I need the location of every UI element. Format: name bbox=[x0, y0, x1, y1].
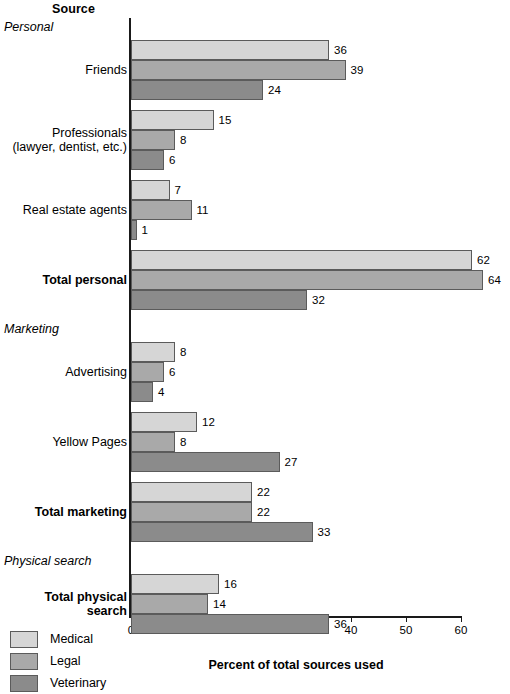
legend-item[interactable]: Medical bbox=[10, 628, 106, 650]
axis-tick bbox=[461, 616, 462, 622]
bar-value-label: 36 bbox=[334, 40, 347, 60]
legend-label: Veterinary bbox=[50, 676, 106, 690]
legend-swatch-legal bbox=[10, 653, 38, 670]
legend-item[interactable]: Veterinary bbox=[10, 672, 106, 694]
plot-area: 0102030405060 36392415867111626432864128… bbox=[131, 18, 461, 616]
bar-legal bbox=[131, 60, 346, 80]
bar-value-label: 6 bbox=[169, 150, 175, 170]
legend-label: Legal bbox=[50, 654, 81, 668]
axis-tick bbox=[351, 616, 352, 622]
bar-value-label: 11 bbox=[197, 200, 209, 220]
bar-veterinary bbox=[131, 80, 263, 100]
page-title: Source bbox=[52, 2, 95, 16]
bar-veterinary bbox=[131, 522, 313, 542]
bar-medical bbox=[131, 110, 214, 130]
bar-legal bbox=[131, 200, 192, 220]
group-heading-label: Marketing bbox=[4, 322, 128, 336]
bar-value-label: 14 bbox=[213, 594, 226, 614]
bar-medical bbox=[131, 574, 219, 594]
category-label: Total physical search bbox=[3, 590, 127, 618]
category-label: Advertising bbox=[3, 365, 127, 379]
bar-medical bbox=[131, 412, 197, 432]
legend-swatch-medical bbox=[10, 631, 38, 648]
bar-value-label: 32 bbox=[312, 290, 325, 310]
bar-value-label: 8 bbox=[180, 342, 186, 362]
bar-medical bbox=[131, 342, 175, 362]
category-label-column: PersonalFriendsProfessionals (lawyer, de… bbox=[0, 18, 127, 616]
legend-label: Medical bbox=[50, 632, 93, 646]
bar-legal bbox=[131, 594, 208, 614]
bar-veterinary bbox=[131, 382, 153, 402]
bar-medical bbox=[131, 40, 329, 60]
bar-chart: Source PersonalFriendsProfessionals (law… bbox=[0, 0, 510, 694]
bar-value-label: 36 bbox=[334, 614, 347, 634]
bar-value-label: 33 bbox=[318, 522, 331, 542]
bar-medical bbox=[131, 482, 252, 502]
category-label: Total marketing bbox=[3, 505, 127, 519]
bar-value-label: 12 bbox=[202, 412, 215, 432]
axis-tick bbox=[406, 616, 407, 622]
bar-value-label: 4 bbox=[158, 382, 164, 402]
category-label: Professionals (lawyer, dentist, etc.) bbox=[3, 126, 127, 154]
bar-value-label: 15 bbox=[219, 110, 232, 130]
group-heading-label: Physical search bbox=[4, 554, 128, 568]
bar-value-label: 39 bbox=[351, 60, 364, 80]
bar-value-label: 22 bbox=[257, 482, 270, 502]
axis-tick-label: 50 bbox=[400, 624, 413, 636]
x-axis-title: Percent of total sources used bbox=[131, 658, 461, 672]
bar-value-label: 27 bbox=[285, 452, 298, 472]
legend-swatch-veterinary bbox=[10, 675, 38, 692]
legend-item[interactable]: Legal bbox=[10, 650, 106, 672]
bar-value-label: 64 bbox=[488, 270, 501, 290]
bar-value-label: 8 bbox=[180, 130, 186, 150]
bar-value-label: 16 bbox=[224, 574, 237, 594]
bar-value-label: 62 bbox=[477, 250, 490, 270]
bar-value-label: 8 bbox=[180, 432, 186, 452]
bar-value-label: 22 bbox=[257, 502, 270, 522]
bar-legal bbox=[131, 270, 483, 290]
axis-tick-label: 60 bbox=[455, 624, 468, 636]
bar-medical bbox=[131, 180, 170, 200]
bar-veterinary bbox=[131, 290, 307, 310]
group-heading-label: Personal bbox=[4, 20, 128, 34]
bar-legal bbox=[131, 432, 175, 452]
bar-veterinary bbox=[131, 452, 280, 472]
bar-value-label: 24 bbox=[268, 80, 281, 100]
category-label: Friends bbox=[3, 63, 127, 77]
legend: MedicalLegalVeterinary bbox=[10, 628, 106, 694]
bar-legal bbox=[131, 362, 164, 382]
bar-value-label: 6 bbox=[169, 362, 175, 382]
category-label: Total personal bbox=[3, 273, 127, 287]
bar-legal bbox=[131, 502, 252, 522]
category-label: Yellow Pages bbox=[3, 435, 127, 449]
bar-veterinary bbox=[131, 150, 164, 170]
bar-value-label: 7 bbox=[175, 180, 181, 200]
bar-veterinary bbox=[131, 220, 137, 240]
bar-veterinary bbox=[131, 614, 329, 634]
bar-value-label: 1 bbox=[142, 220, 148, 240]
bar-medical bbox=[131, 250, 472, 270]
category-label: Real estate agents bbox=[3, 203, 127, 217]
bar-legal bbox=[131, 130, 175, 150]
